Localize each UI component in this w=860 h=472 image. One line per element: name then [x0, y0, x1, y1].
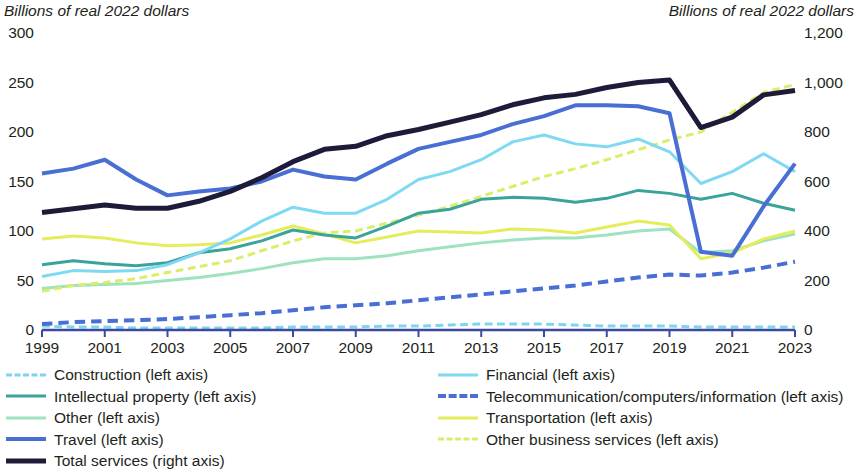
- legend-item[interactable]: Intellectual property (left axis): [6, 386, 256, 408]
- legend-item-label: Construction (left axis): [54, 367, 208, 383]
- series-line: [42, 324, 795, 328]
- legend-item[interactable]: Construction (left axis): [6, 364, 256, 386]
- legend-item[interactable]: Other (left axis): [6, 407, 256, 429]
- legend-item[interactable]: Total services (right axis): [6, 450, 256, 472]
- legend-item[interactable]: Travel (left axis): [6, 429, 256, 451]
- legend-item[interactable]: Financial (left axis): [438, 364, 844, 386]
- legend-item[interactable]: Telecommunication/computers/information …: [438, 386, 844, 408]
- legend-color-swatch: [6, 416, 46, 420]
- legend-item-label: Transportation (left axis): [486, 410, 653, 426]
- legend-color-swatch: [438, 373, 478, 377]
- legend-color-swatch: [438, 437, 478, 441]
- legend-item-label: Other business services (left axis): [486, 432, 719, 448]
- chart-legend: Construction (left axis)Intellectual pro…: [0, 364, 860, 463]
- series-line: [42, 190, 795, 265]
- legend-item-label: Telecommunication/computers/information …: [486, 389, 844, 405]
- legend-column-left: Construction (left axis)Intellectual pro…: [6, 364, 256, 472]
- legend-item-label: Intellectual property (left axis): [54, 389, 256, 405]
- legend-item-label: Other (left axis): [54, 410, 160, 426]
- legend-column-right: Financial (left axis)Telecommunication/c…: [438, 364, 844, 450]
- legend-item[interactable]: Other business services (left axis): [438, 429, 844, 451]
- legend-color-swatch: [6, 394, 46, 398]
- legend-color-swatch: [6, 459, 46, 463]
- series-line: [42, 80, 795, 212]
- legend-item-label: Financial (left axis): [486, 367, 615, 383]
- legend-item-label: Total services (right axis): [54, 453, 225, 469]
- legend-color-swatch: [6, 437, 46, 441]
- series-line: [42, 221, 795, 259]
- legend-color-swatch: [438, 416, 478, 420]
- legend-color-swatch: [438, 394, 478, 398]
- series-line: [42, 262, 795, 324]
- legend-item-label: Travel (left axis): [54, 432, 164, 448]
- legend-item[interactable]: Transportation (left axis): [438, 407, 844, 429]
- legend-color-swatch: [6, 373, 46, 377]
